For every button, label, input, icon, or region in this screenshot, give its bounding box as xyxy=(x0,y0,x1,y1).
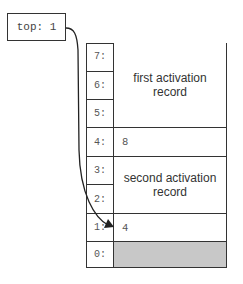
pointer-arrow-icon xyxy=(0,0,243,284)
